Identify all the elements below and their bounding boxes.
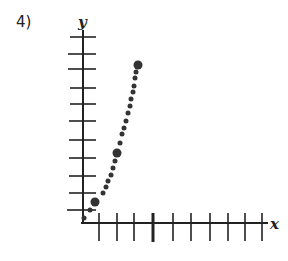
- axes: [81, 30, 268, 224]
- graph: [0, 0, 288, 261]
- curve-dots: [82, 70, 139, 221]
- large-points: [91, 61, 143, 207]
- x-ticks: [99, 213, 262, 242]
- y-ticks: [67, 37, 96, 210]
